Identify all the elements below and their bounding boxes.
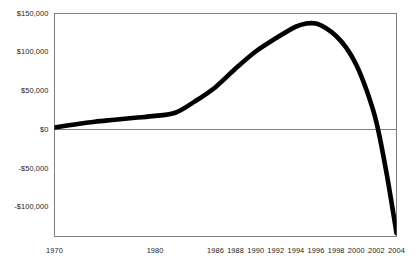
x-tick-label: 1998 xyxy=(328,247,345,254)
y-tick-label: $100,000 xyxy=(0,49,49,56)
y-tick-label: $50,000 xyxy=(0,87,49,94)
y-tick-label: $150,000 xyxy=(0,10,49,17)
y-tick-label: -$50,000 xyxy=(0,165,49,172)
x-tick-label: 1988 xyxy=(227,247,244,254)
x-tick-label: 1970 xyxy=(46,247,63,254)
data-series-line xyxy=(55,23,397,233)
x-tick-label: 2002 xyxy=(368,247,385,254)
x-tick-label: 1996 xyxy=(308,247,325,254)
x-tick-label: 1994 xyxy=(287,247,304,254)
line-chart: $150,000$100,000$50,000$0-$50,000-$100,0… xyxy=(0,0,416,268)
x-tick-label: 1992 xyxy=(267,247,284,254)
chart-canvas xyxy=(0,0,416,268)
series-balance-line xyxy=(55,23,397,233)
x-tick-label: 2000 xyxy=(348,247,365,254)
x-tick-label: 2004 xyxy=(388,247,405,254)
x-tick-label: 1980 xyxy=(147,247,164,254)
x-tick-label: 1990 xyxy=(247,247,264,254)
x-tick-label: 1986 xyxy=(207,247,224,254)
y-tick-label: $0 xyxy=(0,126,49,133)
y-tick-label: -$100,000 xyxy=(0,204,49,211)
